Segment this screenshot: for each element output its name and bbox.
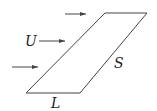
base-length-label: L bbox=[50, 95, 60, 111]
side-length-label: S bbox=[114, 55, 124, 71]
swept-plate-diagram: U S L bbox=[0, 0, 157, 111]
parallelogram-plate bbox=[26, 13, 147, 93]
flow-arrows bbox=[12, 14, 86, 67]
velocity-label: U bbox=[25, 33, 38, 49]
